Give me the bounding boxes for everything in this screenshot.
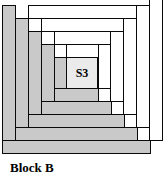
log-18-gray-bottom: [2, 140, 151, 154]
log-2-gray-bottom: [54, 88, 99, 102]
quilt-block-figure: S3 Block B: [0, 0, 163, 179]
center-square-s3: S3: [66, 57, 98, 89]
log-10-gray-bottom: [28, 114, 125, 128]
log-17-gray-left: [2, 5, 16, 154]
log-16-white-right: [136, 5, 150, 128]
block-caption: Block B: [10, 160, 54, 176]
log-12-white-right: [123, 18, 137, 115]
log-cabin-block-diagram: S3: [10, 11, 154, 156]
log-15-white-top: [28, 5, 150, 19]
log-14-gray-bottom: [15, 127, 138, 141]
log-19-white-right: [149, 0, 163, 141]
log-6-gray-bottom: [41, 101, 112, 115]
center-square-label: S3: [76, 67, 89, 79]
log-8-white-right: [110, 31, 124, 102]
log-13-gray-left: [15, 18, 29, 141]
